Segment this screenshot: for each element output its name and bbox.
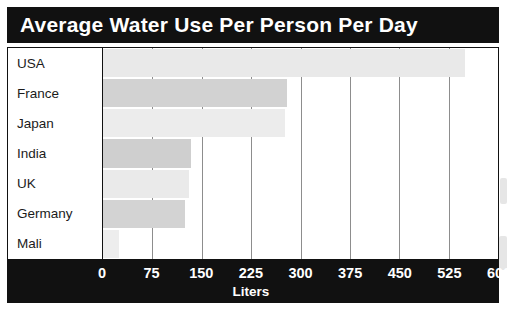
- bar-chart-figure: Average Water Use Per Person Per Day USA…: [7, 7, 499, 303]
- bar-japan: [103, 109, 285, 137]
- bar-uk: [103, 170, 189, 198]
- bar-row: [103, 229, 498, 259]
- bar-series: [103, 48, 498, 259]
- bar-germany: [103, 200, 185, 228]
- scan-artifact-upper: [500, 178, 507, 204]
- category-label: Germany: [8, 199, 102, 229]
- x-tick-label: 525: [437, 265, 461, 281]
- bar-row: [103, 108, 498, 138]
- x-tick-label: 0: [98, 265, 106, 281]
- bars-region: [103, 48, 498, 259]
- x-axis-tick-labels: 075150225300375450525600: [102, 265, 499, 285]
- x-tick-label: 75: [144, 265, 160, 281]
- bar-row: [103, 169, 498, 199]
- x-tick-label: 450: [388, 265, 412, 281]
- x-tick-label: 225: [239, 265, 263, 281]
- category-label: USA: [8, 48, 102, 78]
- bar-mali: [103, 230, 119, 258]
- x-axis-title: Liters: [232, 284, 269, 299]
- x-axis-bar: 075150225300375450525600 Liters: [7, 260, 499, 303]
- category-label: UK: [8, 169, 102, 199]
- category-label-column: USAFranceJapanIndiaUKGermanyMali: [8, 48, 103, 259]
- bar-france: [103, 79, 287, 107]
- bar-india: [103, 139, 191, 167]
- x-tick-label: 150: [189, 265, 213, 281]
- bar-row: [103, 138, 498, 168]
- bar-row: [103, 78, 498, 108]
- bar-row: [103, 48, 498, 78]
- bar-usa: [103, 49, 465, 77]
- category-label: France: [8, 78, 102, 108]
- x-tick-label: 300: [288, 265, 312, 281]
- chart-title: Average Water Use Per Person Per Day: [20, 13, 418, 37]
- chart-title-bar: Average Water Use Per Person Per Day: [7, 7, 499, 43]
- plot-area: USAFranceJapanIndiaUKGermanyMali: [7, 47, 499, 260]
- category-label: Mali: [8, 229, 102, 259]
- category-label: India: [8, 138, 102, 168]
- bar-row: [103, 199, 498, 229]
- category-label: Japan: [8, 108, 102, 138]
- x-tick-label: 600: [487, 265, 507, 281]
- x-tick-label: 375: [338, 265, 362, 281]
